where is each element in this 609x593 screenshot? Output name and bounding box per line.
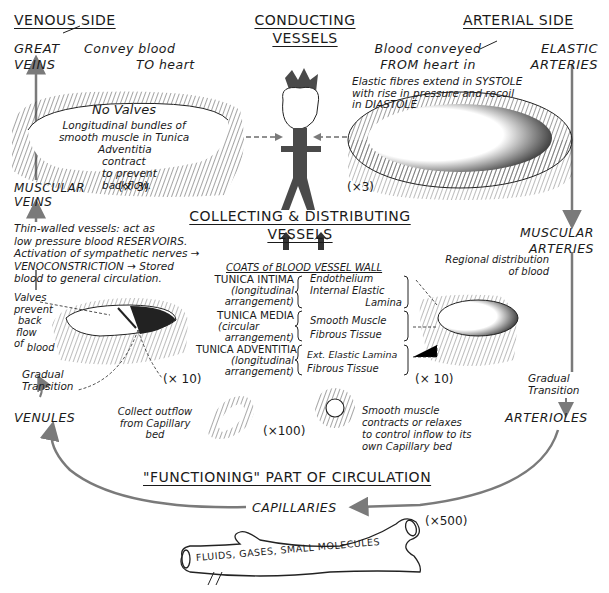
venule-magnification: (×100) <box>263 424 305 438</box>
venous-side-header: VENOUS SIDE <box>14 12 116 28</box>
arterioles-label: ARTERIOLES <box>505 410 588 425</box>
functioning-part-header: "FUNCTIONING" PART OF CIRCULATION <box>143 469 431 485</box>
valves-note: Valves prevent back flow of blood <box>14 292 55 350</box>
venous-gradual-transition: Gradual Transition <box>22 368 74 392</box>
collecting-distributing-header-line1: COLLECTING & DISTRIBUTING <box>170 208 430 224</box>
arterioles-note: Smooth muscle contracts or relaxes to co… <box>362 405 471 453</box>
arteriole-drawing <box>315 388 355 428</box>
coats-title: COATS of BLOOD VESSEL WALL <box>226 262 382 273</box>
elastic-arteries-label: ELASTIC ARTERIES <box>520 41 598 73</box>
elastic-artery-magnification: (×3) <box>347 180 374 194</box>
no-valves-title: No Valves <box>92 102 156 117</box>
coat-intima-layers: Endothelium Internal Elastic Lamina <box>310 273 406 309</box>
regional-distribution-note: Regional distribution of blood <box>425 254 549 278</box>
conducting-vessels-header-line2: VESSELS <box>240 30 370 46</box>
muscular-arteries-label: MUSCULAR ARTERIES <box>502 225 594 257</box>
great-veins-label: GREAT VEINS <box>14 41 60 73</box>
capillary-magnification: (×500) <box>425 514 467 528</box>
elastic-arteries-note: Blood conveyed FROM heart in <box>373 41 483 73</box>
capillaries-label: CAPILLARIES <box>252 500 337 515</box>
coat-intima: TUNICA INTIMA (longitudinal arrangement) <box>200 273 294 307</box>
muscular-artery-drawing <box>413 280 518 366</box>
reservoir-note: Thin-walled vessels: act as low pressure… <box>14 222 200 285</box>
heart-drawing <box>281 68 321 210</box>
muscular-veins-label: MUSCULAR VEINS <box>14 181 85 209</box>
muscular-artery-magnification: (× 10) <box>415 372 454 386</box>
coat-adventitia: TUNICA ADVENTITIA (longitudinal arrangem… <box>196 344 294 377</box>
venules-label: VENULES <box>14 410 75 425</box>
conducting-vessels-header-line1: CONDUCTING <box>240 12 370 28</box>
great-veins-note: Convey blood TO heart <box>84 41 195 73</box>
collecting-distributing-header-line2: VESSELS <box>250 226 350 242</box>
elastic-fibres-note: Elastic fibres extend in SYSTOLE with ri… <box>352 76 522 111</box>
arterial-gradual-transition: Gradual Transition <box>528 372 580 396</box>
great-vein-magnification: (× 3) <box>118 180 149 194</box>
coat-media: TUNICA MEDIA (circular arrangement) <box>200 309 294 343</box>
venules-note: Collect outflow from Capillary bed <box>100 406 210 441</box>
coat-media-layers: Smooth Muscle Fibrous Tissue <box>310 314 406 342</box>
venule-drawing <box>208 396 254 439</box>
coat-adventitia-layers: Ext. Elastic Lamina Fibrous Tissue <box>307 348 407 376</box>
arterial-side-header: ARTERIAL SIDE <box>463 12 574 28</box>
